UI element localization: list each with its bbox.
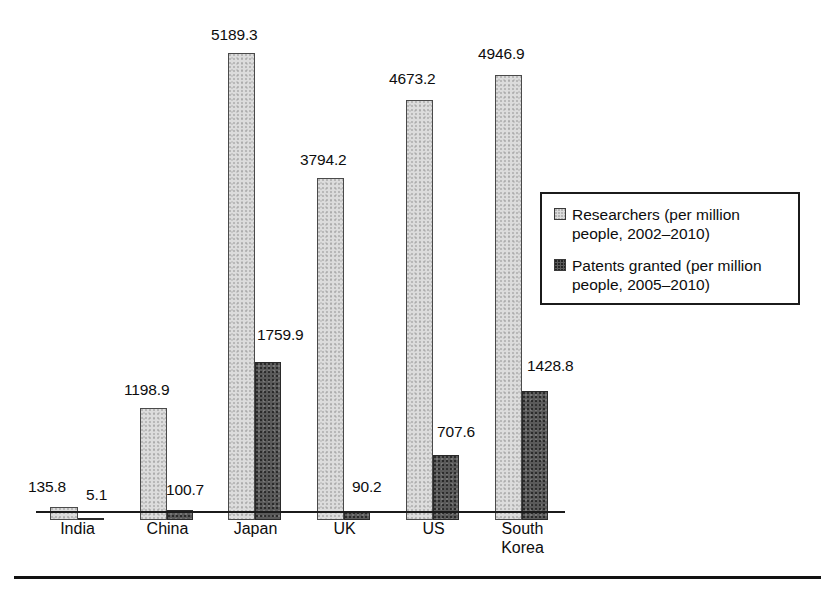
dark-gray-swatch-icon [554,259,566,271]
value-label-india-researchers: 135.8 [28,478,66,496]
x-axis-label-india: India [40,519,115,538]
bar-uk-researchers [317,178,344,520]
bar-chart-figure: 135.8 5.1 1198.9 100.7 5189.3 1759.9 379… [0,0,835,590]
bar-south-korea-researchers [495,75,522,520]
value-label-us-researchers: 4673.2 [389,70,436,88]
x-axis-label-us: US [396,519,471,538]
bottom-divider-rule [14,576,821,579]
value-label-china-researchers: 1198.9 [124,381,169,399]
x-axis-label-japan: Japan [218,519,293,538]
legend-label-researchers: Researchers (per million people, 2002–20… [572,205,798,243]
value-label-india-patents: 5.1 [86,486,107,504]
bar-china-researchers [140,408,167,520]
legend-entry-researchers: Researchers (per million people, 2002–20… [554,205,798,243]
x-axis-label-china: China [130,519,205,538]
bar-south-korea-patents [522,391,548,520]
value-label-uk-patents: 90.2 [352,478,382,496]
value-label-japan-researchers: 5189.3 [211,26,258,44]
x-axis-label-uk: UK [307,519,382,538]
value-label-uk-researchers: 3794.2 [300,151,347,169]
bar-us-researchers [406,100,433,520]
plot-area: 135.8 5.1 1198.9 100.7 5189.3 1759.9 379… [0,0,835,520]
light-gray-swatch-icon [554,208,566,220]
bar-japan-patents [255,362,281,520]
bar-group-japan [228,0,283,520]
x-axis-label-south-korea: South Korea [485,519,560,557]
value-label-south-korea-researchers: 4946.9 [478,45,525,63]
value-label-south-korea-patents: 1428.8 [527,357,574,375]
bar-group-india [50,0,105,520]
value-label-china-patents: 100.7 [166,481,204,499]
legend-entry-patents: Patents granted (per million people, 200… [554,256,798,294]
x-axis-line [36,511,565,513]
legend-label-patents: Patents granted (per million people, 200… [572,256,798,294]
value-label-us-patents: 707.6 [437,423,475,441]
bar-group-china [140,0,195,520]
bar-japan-researchers [228,53,255,520]
value-label-japan-patents: 1759.9 [257,326,304,344]
legend: Researchers (per million people, 2002–20… [540,192,800,305]
bar-group-uk [317,0,372,520]
